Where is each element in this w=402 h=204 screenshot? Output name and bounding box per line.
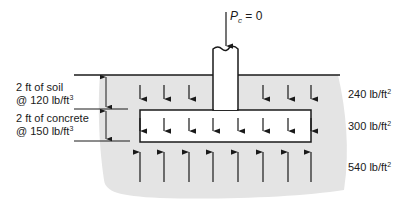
load-label: Pc = 0 (230, 9, 262, 25)
soil-unit-weight-text: @ 120 lb/ft (16, 94, 69, 106)
pressure-exp: 2 (387, 88, 391, 95)
load-symbol: P (230, 9, 238, 23)
soil-layer-label: 2 ft of soil @ 120 lb/ft3 (16, 81, 73, 107)
pressure-value: 300 lb/ft (348, 120, 387, 132)
pressure-exp: 2 (387, 120, 391, 127)
pressure-value: 240 lb/ft (348, 88, 387, 100)
concrete-unit-weight-text: @ 150 lb/ft (16, 125, 69, 137)
load-value: = 0 (245, 9, 262, 23)
pressure-label-soil: 240 lb/ft2 (348, 88, 391, 101)
concrete-thickness: 2 ft of concrete (16, 112, 89, 125)
footing (140, 110, 311, 142)
concrete-unit-weight-exp: 3 (69, 125, 73, 132)
soil-unit-weight-exp: 3 (69, 94, 73, 101)
concrete-unit-weight: @ 150 lb/ft3 (16, 125, 89, 138)
concrete-layer-label: 2 ft of concrete @ 150 lb/ft3 (16, 112, 89, 138)
load-subscript: c (238, 16, 242, 25)
pressure-value: 540 lb/ft (348, 161, 387, 173)
pressure-label-combined: 300 lb/ft2 (348, 120, 391, 133)
soil-unit-weight: @ 120 lb/ft3 (16, 94, 73, 107)
pressure-label-reaction: 540 lb/ft2 (348, 161, 391, 174)
soil-thickness: 2 ft of soil (16, 81, 73, 94)
pressure-exp: 2 (387, 161, 391, 168)
